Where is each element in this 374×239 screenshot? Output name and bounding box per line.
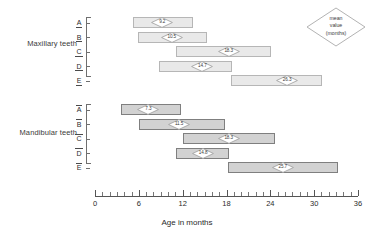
bracket-tick bbox=[86, 139, 90, 140]
x-axis-minor-tick bbox=[292, 192, 293, 196]
x-axis-minor-tick bbox=[300, 192, 301, 196]
mean-value-label: 7.3 bbox=[145, 107, 151, 112]
tier-label-mandibular-a: A bbox=[73, 106, 85, 113]
x-axis-minor-tick bbox=[205, 192, 206, 196]
tier-letter: D bbox=[75, 150, 82, 157]
mean-value-marker: 18.3 bbox=[218, 133, 240, 144]
tier-letter: B bbox=[76, 121, 83, 128]
x-axis-tick-label: 30 bbox=[304, 199, 324, 208]
mean-value-label: 14.8 bbox=[199, 151, 208, 156]
legend-line-1: mean bbox=[305, 15, 367, 22]
x-axis-minor-tick bbox=[124, 192, 125, 196]
mean-value-label: 18.3 bbox=[224, 49, 233, 54]
mean-value-marker: 26.3 bbox=[276, 75, 298, 86]
mean-value-label: 9.2 bbox=[159, 20, 165, 25]
tier-label-maxillary-c: C bbox=[73, 48, 85, 55]
bracket-tick bbox=[86, 124, 90, 125]
mean-value-marker: 7.3 bbox=[137, 104, 159, 115]
x-axis-major-tick bbox=[95, 190, 96, 196]
tier-letter: C bbox=[75, 135, 82, 142]
x-axis-minor-tick bbox=[329, 192, 330, 196]
x-axis-major-tick bbox=[314, 190, 315, 196]
x-axis-minor-tick bbox=[256, 192, 257, 196]
x-axis-minor-tick bbox=[190, 192, 191, 196]
x-axis-tick-label: 0 bbox=[85, 199, 105, 208]
x-axis-minor-tick bbox=[285, 192, 286, 196]
x-axis-tick-label: 36 bbox=[348, 199, 368, 208]
mean-value-label: 25.7 bbox=[278, 165, 287, 170]
tooth-eruption-chart: mean value (months) Maxillary teeth Mand… bbox=[0, 0, 374, 239]
x-axis-minor-tick bbox=[336, 192, 337, 196]
x-axis-minor-tick bbox=[197, 192, 198, 196]
mean-value-marker: 9.2 bbox=[151, 17, 173, 28]
mean-value-label: 26.3 bbox=[283, 78, 292, 83]
mean-value-label: 10.5 bbox=[167, 35, 176, 40]
mean-value-label: 18.3 bbox=[224, 136, 233, 141]
legend-line-2: value bbox=[305, 22, 367, 29]
bracket-tick bbox=[86, 52, 90, 53]
x-axis-minor-tick bbox=[168, 192, 169, 196]
x-axis-minor-tick bbox=[117, 192, 118, 196]
group-bracket-mandibular bbox=[86, 104, 91, 164]
legend-line-3: (months) bbox=[305, 30, 367, 37]
x-axis-minor-tick bbox=[234, 192, 235, 196]
x-axis-minor-tick bbox=[307, 192, 308, 196]
legend-text: mean value (months) bbox=[305, 15, 367, 37]
tier-label-maxillary-e: E bbox=[73, 77, 85, 84]
tier-letter: D bbox=[75, 63, 82, 70]
x-axis-minor-tick bbox=[153, 192, 154, 196]
tier-label-maxillary-d: D bbox=[73, 63, 85, 70]
bracket-tick bbox=[86, 168, 90, 169]
mean-value-label: 14.7 bbox=[198, 64, 207, 69]
x-axis-minor-tick bbox=[248, 192, 249, 196]
mean-value-marker: 11.5 bbox=[168, 119, 190, 130]
tier-letter: B bbox=[76, 34, 83, 41]
mean-value-marker: 18.3 bbox=[218, 46, 240, 57]
bracket-tick bbox=[86, 110, 90, 111]
bracket-tick bbox=[86, 66, 90, 67]
x-axis-minor-tick bbox=[263, 192, 264, 196]
x-axis-minor-tick bbox=[132, 192, 133, 196]
group-label-maxillary: Maxillary teeth bbox=[0, 39, 77, 48]
tier-label-mandibular-e: E bbox=[73, 164, 85, 171]
tier-label-maxillary-a: A bbox=[73, 19, 85, 26]
tier-label-mandibular-c: C bbox=[73, 135, 85, 142]
tier-label-mandibular-b: B bbox=[73, 121, 85, 128]
mean-value-label: 11.5 bbox=[175, 122, 183, 127]
mean-value-marker: 25.7 bbox=[272, 162, 294, 173]
x-axis-major-tick bbox=[183, 190, 184, 196]
x-axis-minor-tick bbox=[110, 192, 111, 196]
x-axis-minor-tick bbox=[219, 192, 220, 196]
x-axis-minor-tick bbox=[278, 192, 279, 196]
tier-letter: A bbox=[76, 19, 83, 26]
x-axis-minor-tick bbox=[212, 192, 213, 196]
mean-value-marker: 14.8 bbox=[192, 148, 214, 159]
x-axis-minor-tick bbox=[241, 192, 242, 196]
tier-letter: E bbox=[76, 77, 83, 84]
group-label-mandibular: Mandibular teeth bbox=[0, 128, 77, 137]
tier-letter: C bbox=[75, 48, 82, 55]
tier-label-maxillary-b: B bbox=[73, 34, 85, 41]
x-axis-title: Age in months bbox=[0, 218, 374, 227]
legend: mean value (months) bbox=[305, 6, 367, 48]
group-bracket-maxillary bbox=[86, 17, 91, 77]
x-axis-minor-tick bbox=[175, 192, 176, 196]
bracket-tick bbox=[86, 81, 90, 82]
x-axis-major-tick bbox=[270, 190, 271, 196]
x-axis-minor-tick bbox=[161, 192, 162, 196]
x-axis-minor-tick bbox=[343, 192, 344, 196]
x-axis-major-tick bbox=[358, 190, 359, 196]
bracket-tick bbox=[86, 37, 90, 38]
x-axis-minor-tick bbox=[102, 192, 103, 196]
x-axis-tick-label: 12 bbox=[173, 199, 193, 208]
bracket-tick bbox=[86, 23, 90, 24]
x-axis-line bbox=[95, 196, 358, 197]
x-axis-tick-label: 24 bbox=[260, 199, 280, 208]
tier-letter: A bbox=[76, 106, 83, 113]
x-axis-minor-tick bbox=[146, 192, 147, 196]
x-axis-major-tick bbox=[227, 190, 228, 196]
tier-letter: E bbox=[76, 164, 83, 171]
mean-value-marker: 14.7 bbox=[191, 61, 213, 72]
x-axis-minor-tick bbox=[321, 192, 322, 196]
x-axis-major-tick bbox=[139, 190, 140, 196]
